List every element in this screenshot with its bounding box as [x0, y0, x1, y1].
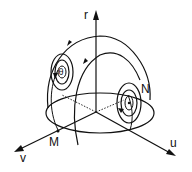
label-axis-u: u	[170, 136, 177, 150]
label-theta: θ	[59, 67, 64, 77]
axis-u-arrowhead-icon	[166, 149, 176, 156]
flow-arrow-icon	[67, 40, 72, 46]
point-M	[57, 130, 60, 133]
meridian-arc-right	[128, 95, 132, 130]
focus-N	[117, 83, 141, 123]
flow-arrow-icon	[83, 58, 88, 64]
label-M: M	[49, 135, 59, 149]
hemisphere-diagram: θ N M r u v	[0, 0, 192, 172]
label-axis-v: v	[20, 151, 26, 165]
label-axis-r: r	[84, 8, 88, 22]
equator-ellipse	[46, 93, 154, 133]
label-N: N	[141, 82, 150, 96]
axis-r-arrowhead-icon	[93, 10, 99, 20]
